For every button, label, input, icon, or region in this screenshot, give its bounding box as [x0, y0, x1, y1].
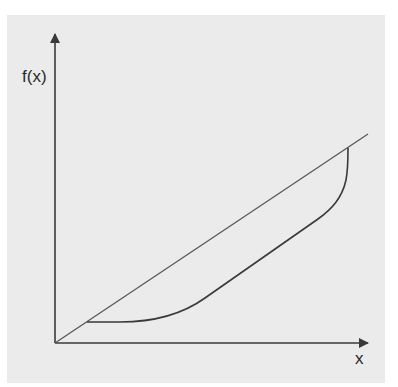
y-axis-label: f(x) — [22, 68, 47, 85]
x-axis-label: x — [355, 350, 364, 367]
function-plot — [0, 0, 398, 387]
linear-line — [55, 134, 368, 343]
